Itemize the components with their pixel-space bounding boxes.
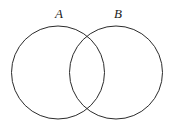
set-label-a: A <box>54 6 63 21</box>
set-label-b: B <box>114 6 122 21</box>
venn-diagram-figure: A B <box>0 0 174 126</box>
venn-diagram-canvas: A B <box>0 0 174 126</box>
figure-background <box>0 0 174 126</box>
